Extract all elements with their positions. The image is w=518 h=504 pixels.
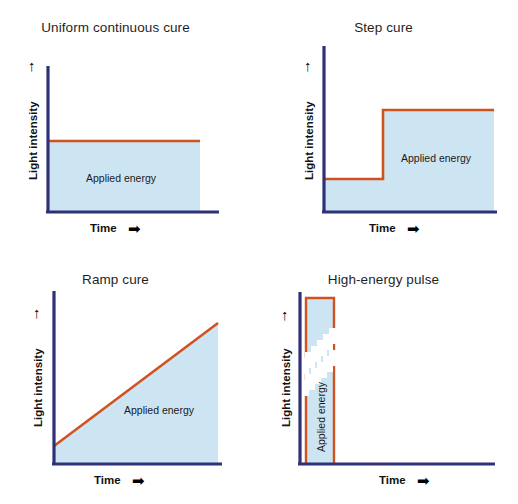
x-axis-label: Time — [369, 222, 396, 234]
applied-energy-area — [54, 323, 218, 464]
y-axis-label: Light intensity — [32, 348, 44, 427]
y-axis-arrow-up-icon: ↑ — [33, 305, 41, 320]
y-axis-label: Light intensity — [280, 348, 292, 427]
y-axis-label: Light intensity — [303, 101, 315, 180]
y-axis-arrow-up-icon: ↑ — [28, 58, 36, 73]
plot-area — [259, 252, 518, 504]
y-axis-arrow-up-icon: ↑ — [304, 58, 312, 73]
panel-uniform-continuous-cure: Uniform continuous cure ↑ Light intensit… — [0, 0, 259, 252]
x-axis-arrow-right-icon: ➡ — [132, 473, 145, 488]
applied-energy-label: Applied energy — [401, 152, 471, 164]
x-axis-arrow-right-icon: ➡ — [128, 221, 141, 236]
applied-energy-label: Applied energy — [315, 382, 327, 452]
x-axis-label: Time — [94, 474, 121, 486]
panel-high-energy-pulse: High-energy pulse ↑ Light intensity Time — [259, 252, 518, 504]
x-axis-arrow-right-icon: ➡ — [407, 221, 420, 236]
x-axis-label: Time — [90, 222, 117, 234]
x-axis-arrow-right-icon: ➡ — [417, 473, 430, 488]
plot-area — [259, 0, 518, 252]
x-axis-label: Time — [379, 474, 406, 486]
applied-energy-label: Applied energy — [86, 172, 156, 184]
y-axis-label: Light intensity — [27, 101, 39, 180]
four-panel-cure-profiles-figure: Uniform continuous cure ↑ Light intensit… — [0, 0, 518, 504]
panel-step-cure: Step cure ↑ Light intensity Time ➡ Appli… — [259, 0, 518, 252]
y-axis-arrow-up-icon: ↑ — [281, 307, 289, 322]
panel-ramp-cure: Ramp cure ↑ Light intensity Time ➡ Appli… — [0, 252, 259, 504]
applied-energy-label: Applied energy — [124, 404, 194, 416]
